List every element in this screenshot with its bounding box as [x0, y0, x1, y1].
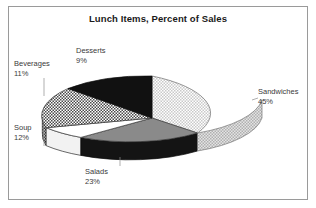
pie-label-soup: Soup 12% — [14, 123, 32, 142]
pie-label-salads-name: Salads — [85, 167, 108, 176]
pie-label-soup-value: 12% — [14, 133, 32, 143]
pie-label-desserts-name: Desserts — [76, 46, 106, 55]
chart-screenshot: Lunch Items, Percent of Sales — [0, 0, 316, 208]
pie-label-beverages-name: Beverages — [14, 59, 50, 68]
pie-label-salads: Salads 23% — [85, 167, 108, 186]
pie-label-soup-name: Soup — [14, 123, 32, 132]
pie-label-sandwiches-value: 45% — [258, 97, 298, 107]
pie-label-desserts: Desserts 9% — [76, 46, 106, 65]
pie-label-desserts-value: 9% — [76, 56, 106, 66]
pie-label-salads-value: 23% — [85, 177, 108, 187]
pie-top-faces — [42, 76, 211, 142]
pie-label-beverages: Beverages 11% — [14, 59, 50, 78]
pie-label-sandwiches-name: Sandwiches — [258, 87, 298, 96]
pie-label-sandwiches: Sandwiches 45% — [258, 87, 298, 106]
pie-label-beverages-value: 11% — [14, 69, 50, 79]
